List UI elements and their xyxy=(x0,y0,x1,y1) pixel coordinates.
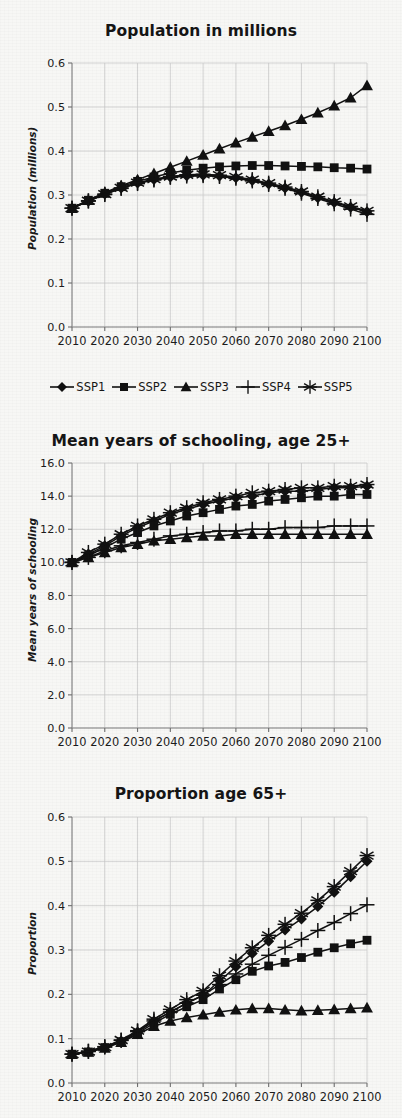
y-tick-label: 6.0 xyxy=(47,623,65,636)
data-point-ssp4 xyxy=(278,520,293,535)
y-tick-label: 0.2 xyxy=(47,233,65,246)
x-tick-label: 2050 xyxy=(189,1090,218,1104)
x-tick-label: 2100 xyxy=(353,334,382,348)
data-point-ssp5 xyxy=(179,500,194,515)
data-point-ssp3 xyxy=(361,1002,373,1013)
data-point-ssp5 xyxy=(228,169,243,184)
chart-panel-proportion65: Proportion age 65+ Proportion 0.00.10.20… xyxy=(0,760,402,1118)
legend-item-ssp3[interactable]: SSP3 xyxy=(173,379,229,395)
y-tick-label: 0.1 xyxy=(47,1033,65,1046)
x-tick-label: 2070 xyxy=(254,334,283,348)
data-point-ssp4 xyxy=(228,966,243,981)
y-tick-label: 10.0 xyxy=(40,556,65,569)
data-point-ssp5 xyxy=(65,201,80,216)
y-tick-label: 0.3 xyxy=(47,944,65,957)
plot-area-schooling: 0.02.04.06.08.010.012.014.016.0201020202… xyxy=(0,410,402,760)
y-tick-label: 2.0 xyxy=(47,689,65,702)
legend: SSP1SSP2SSP3SSP4SSP5 xyxy=(0,376,402,395)
series-ssp3 xyxy=(66,80,373,213)
data-point-ssp2 xyxy=(281,162,290,171)
legend-item-ssp2[interactable]: SSP2 xyxy=(111,379,167,395)
data-point-ssp4 xyxy=(294,932,309,947)
y-tick-label: 0.0 xyxy=(47,321,65,334)
series-ssp3 xyxy=(66,1002,373,1059)
legend-item-ssp4[interactable]: SSP4 xyxy=(235,379,291,395)
y-tick-label: 0.5 xyxy=(47,101,65,114)
plot-area-population: 0.00.10.20.30.40.50.62010202020302040205… xyxy=(0,0,402,370)
y-tick-label: 0.3 xyxy=(47,189,65,202)
data-point-ssp4 xyxy=(327,915,342,930)
x-tick-label: 2010 xyxy=(58,334,87,348)
legend-item-ssp5[interactable]: SSP5 xyxy=(297,379,353,395)
x-tick-label: 2080 xyxy=(287,334,316,348)
data-point-ssp2 xyxy=(313,948,322,957)
data-point-ssp5 xyxy=(228,489,243,504)
data-point-ssp4 xyxy=(294,520,309,535)
data-point-ssp2 xyxy=(231,162,240,171)
data-point-ssp5 xyxy=(245,485,260,500)
legend-label: SSP2 xyxy=(138,380,167,394)
data-point-ssp5 xyxy=(163,505,178,520)
plus-marker xyxy=(241,380,255,394)
square-marker xyxy=(111,379,137,395)
data-point-ssp3 xyxy=(328,100,340,111)
data-point-ssp3 xyxy=(296,113,308,124)
y-tick-label: 14.0 xyxy=(40,490,65,503)
diamond-marker xyxy=(57,382,67,392)
data-point-ssp5 xyxy=(97,187,112,202)
data-point-ssp5 xyxy=(65,1047,80,1062)
series-ssp1 xyxy=(67,856,373,1060)
x-tick-label: 2080 xyxy=(287,1090,316,1104)
data-point-ssp4 xyxy=(278,940,293,955)
data-point-ssp3 xyxy=(312,107,324,118)
data-point-ssp5 xyxy=(294,480,309,495)
data-point-ssp5 xyxy=(294,906,309,921)
data-point-ssp2 xyxy=(264,962,273,971)
x-axis-ticks: 2010202020302040205020602070208020902100 xyxy=(58,728,382,749)
asterisk-marker xyxy=(303,380,317,394)
data-point-ssp5 xyxy=(360,203,375,218)
triangle-marker xyxy=(173,379,199,395)
data-point-ssp2 xyxy=(297,162,306,171)
y-tick-label: 4.0 xyxy=(47,656,65,669)
figure-page: Population in millions Population (milli… xyxy=(0,0,402,1118)
data-point-ssp5 xyxy=(245,940,260,955)
legend-label: SSP4 xyxy=(262,380,291,394)
y-tick-label: 0.4 xyxy=(47,900,65,913)
x-tick-label: 2060 xyxy=(221,334,250,348)
data-point-ssp5 xyxy=(278,180,293,195)
data-point-ssp3 xyxy=(246,131,258,142)
x-tick-label: 2080 xyxy=(287,735,316,749)
data-point-ssp5 xyxy=(81,193,96,208)
data-point-ssp2 xyxy=(363,936,372,945)
data-point-ssp5 xyxy=(327,194,342,209)
series-ssp2 xyxy=(68,936,372,1059)
data-point-ssp2 xyxy=(248,161,257,170)
x-tick-label: 2090 xyxy=(320,1090,349,1104)
asterisk-marker xyxy=(297,379,323,395)
x-tick-label: 2060 xyxy=(221,1090,250,1104)
series-ssp5 xyxy=(65,848,375,1062)
data-point-ssp2 xyxy=(297,953,306,962)
x-tick-label: 2090 xyxy=(320,334,349,348)
square-marker xyxy=(120,383,128,391)
gridlines xyxy=(72,63,367,327)
data-point-ssp4 xyxy=(360,518,375,533)
x-tick-label: 2020 xyxy=(90,334,119,348)
data-point-ssp2 xyxy=(346,939,355,948)
data-point-ssp3 xyxy=(214,143,226,154)
data-point-ssp5 xyxy=(278,482,293,497)
data-point-ssp5 xyxy=(343,479,358,494)
x-tick-label: 2090 xyxy=(320,735,349,749)
legend-item-ssp1[interactable]: SSP1 xyxy=(49,379,105,395)
x-tick-label: 2010 xyxy=(58,735,87,749)
x-tick-label: 2070 xyxy=(254,1090,283,1104)
y-axis-ticks: 0.00.10.20.30.40.50.6 xyxy=(47,57,72,334)
y-tick-label: 0.2 xyxy=(47,988,65,1001)
data-point-ssp5 xyxy=(65,555,80,570)
data-point-ssp5 xyxy=(196,495,211,510)
x-tick-label: 2050 xyxy=(189,735,218,749)
data-point-ssp5 xyxy=(245,172,260,187)
data-point-ssp4 xyxy=(310,923,325,938)
x-tick-label: 2040 xyxy=(156,1090,185,1104)
